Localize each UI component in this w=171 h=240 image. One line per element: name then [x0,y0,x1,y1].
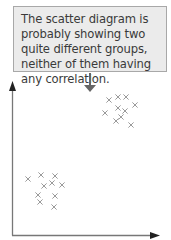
x-marker [41,183,46,188]
callout-arrow [84,73,96,92]
x-marker [35,192,40,197]
x-marker [115,94,120,99]
x-marker [52,173,57,178]
x-marker [123,94,128,99]
x-axis [12,232,160,239]
y-axis [9,81,16,236]
x-marker [118,114,123,119]
x-marker [113,118,118,123]
x-marker [49,180,54,185]
x-marker [132,102,137,107]
x-marker [106,97,111,102]
data-points [25,94,137,209]
x-marker [102,110,107,115]
x-marker [122,108,127,113]
x-marker [38,172,43,177]
x-marker [128,122,133,127]
x-marker [115,105,120,110]
x-marker [52,193,57,198]
scatter-diagram [0,0,171,240]
x-marker [51,204,56,209]
x-marker [25,176,30,181]
x-marker [59,182,64,187]
x-marker [37,199,42,204]
